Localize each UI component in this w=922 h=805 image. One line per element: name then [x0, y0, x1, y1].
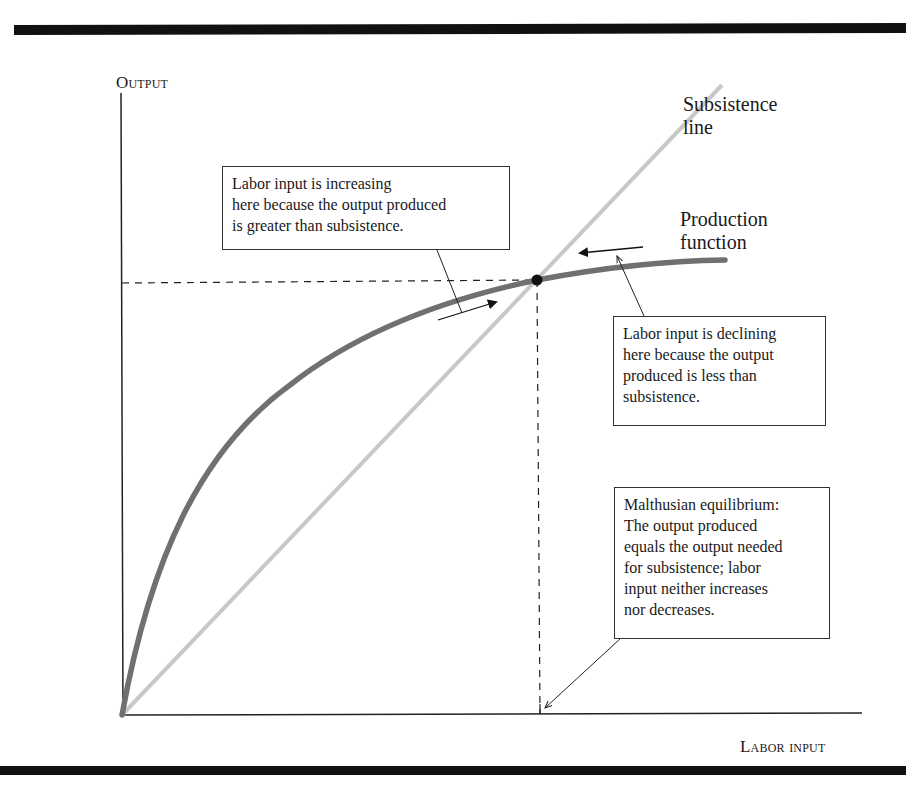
callout-labor-increasing: Labor input is increasing here because t… — [222, 166, 510, 250]
callout-text-line: The output produced — [624, 515, 819, 536]
production-label-line-2: function — [680, 231, 768, 254]
callout-labor-declining: Labor input is declining here because th… — [613, 316, 826, 426]
callout-text-line: input neither increases — [624, 578, 819, 599]
y-axis-label: Output — [116, 73, 168, 93]
production-function-label: Production function — [680, 208, 768, 254]
callout-text-line: Malthusian equilibrium: — [624, 494, 819, 515]
callout-text-line: for subsistence; labor — [624, 557, 819, 578]
callout-text-line: equals the output needed — [624, 536, 819, 557]
subsistence-label-line-1: Subsistence — [683, 93, 777, 116]
y-axis — [121, 93, 123, 715]
declining-arrow-icon — [580, 247, 643, 253]
equilibrium-callout-leader — [545, 638, 621, 708]
x-axis — [122, 713, 862, 715]
subsistence-label-line-2: line — [683, 116, 777, 139]
equilibrium-point — [532, 275, 543, 286]
callout-malthusian-equilibrium: Malthusian equilibrium: The output produ… — [614, 487, 830, 639]
callout-text-line: Labor input is increasing — [232, 173, 499, 194]
callout-text-line: here because the output produced — [232, 194, 499, 215]
x-axis-label: Labor input — [740, 737, 826, 757]
callout-text-line: nor decreases. — [624, 599, 819, 620]
callout-text-line: here because the output — [623, 344, 815, 365]
callout-text-line: is greater than subsistence. — [232, 215, 499, 236]
callout-text-line: produced is less than — [623, 365, 815, 386]
labor-guide-dashed — [537, 280, 540, 713]
output-guide-dashed — [122, 280, 537, 283]
subsistence-line-label: Subsistence line — [683, 93, 777, 139]
production-label-line-1: Production — [680, 208, 768, 231]
callout-text-line: Labor input is declining — [623, 323, 815, 344]
callout-text-line: subsistence. — [623, 386, 815, 407]
